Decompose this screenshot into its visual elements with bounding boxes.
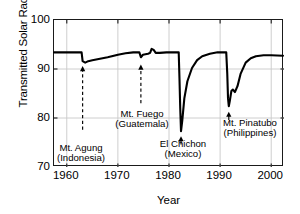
annotation-label-elchichon: El Chichon(Mexico): [145, 139, 221, 160]
x-tick-1990: 1990: [199, 169, 239, 181]
annotation-elchichon-line2: (Mexico): [145, 149, 221, 159]
y-tick-90: 90: [22, 63, 50, 73]
x-tick-1970: 1970: [97, 169, 137, 181]
y-tick-80: 80: [22, 112, 50, 122]
annotation-pinatubo-line2: (Philippines): [207, 128, 293, 138]
annotation-fuego-line2: (Guatemala): [105, 119, 179, 129]
x-axis-title: Year: [53, 194, 284, 206]
annotation-agung-line2: (Indonesia): [44, 153, 118, 163]
x-tick-2000: 2000: [250, 169, 290, 181]
x-tick-1960: 1960: [46, 169, 86, 181]
annotation-label-agung: Mt. Agung(Indonesia): [44, 143, 118, 164]
annotation-label-pinatubo: Mt. Pinatubo(Philippines): [207, 118, 293, 139]
annotation-label-fuego: Mt. Fuego(Guatemala): [105, 109, 179, 130]
y-axis-tick-labels: 100908070: [18, 0, 50, 214]
x-tick-1980: 1980: [148, 169, 188, 181]
y-tick-100: 100: [22, 14, 50, 24]
chart-figure: Transmitted Solar Radiation (%) 10090807…: [0, 0, 300, 214]
arrow-head-fuego: [138, 65, 143, 70]
